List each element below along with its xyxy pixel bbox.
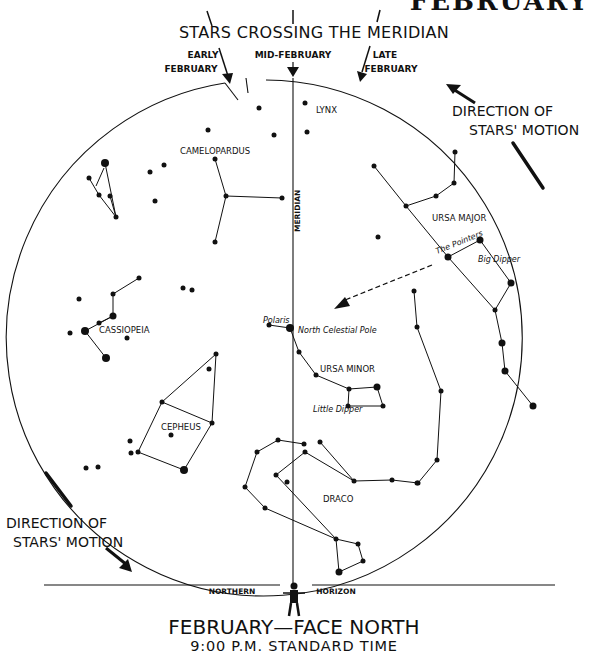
star-icon	[169, 433, 174, 438]
star-icon	[352, 479, 357, 484]
star-icon	[162, 163, 167, 168]
footer-time: 9:00 P.M. STANDARD TIME	[190, 638, 398, 654]
label-draco: DRACO	[323, 494, 354, 504]
star-icon	[305, 130, 310, 135]
star-icon	[77, 297, 82, 302]
star-icon	[181, 286, 186, 291]
star-icon	[297, 350, 302, 355]
star-icon	[502, 368, 509, 375]
star-icon	[272, 133, 277, 138]
star-icon	[213, 157, 218, 162]
star-icon	[453, 150, 458, 155]
star-icon	[129, 451, 134, 456]
pointers-dashed-arrow	[334, 265, 432, 309]
star-icon	[207, 367, 212, 372]
star-icon	[347, 387, 352, 392]
label-polaris: Polaris	[263, 316, 290, 325]
star-icon	[334, 537, 339, 542]
star-icon	[412, 289, 417, 294]
star-icon	[96, 465, 101, 470]
direction-left-line1: DIRECTION OF	[6, 515, 107, 531]
star-icon	[303, 101, 308, 106]
star-icon	[263, 506, 268, 511]
star-icon	[153, 199, 158, 204]
mid-february-arrow	[287, 62, 299, 77]
star-icon	[97, 193, 102, 198]
label-big-dipper: Big Dipper	[478, 255, 521, 264]
star-icon	[336, 569, 343, 576]
star-icon	[137, 276, 142, 281]
star-icon	[302, 442, 307, 447]
star-icon	[128, 439, 133, 444]
meridian-label: MERIDIAN	[293, 190, 302, 232]
star-icon	[356, 542, 361, 547]
star-icon	[493, 308, 498, 313]
star-icon	[213, 240, 218, 245]
star-icon	[243, 485, 248, 490]
star-icon	[125, 336, 130, 341]
star-icon	[110, 313, 117, 320]
star-icon	[81, 327, 89, 335]
star-icon	[372, 164, 377, 169]
star-icon	[415, 481, 420, 486]
label-lynx: LYNX	[316, 105, 337, 115]
stars-layer	[68, 101, 537, 576]
star-icon	[434, 194, 439, 199]
star-icon	[160, 400, 165, 405]
star-icon	[445, 254, 452, 261]
star-icon	[499, 340, 506, 347]
direction-right-line2: STARS' MOTION	[469, 122, 579, 138]
label-camelopardus: CAMELOPARDUS	[180, 146, 250, 156]
label-ursa-minor: URSA MINOR	[320, 364, 375, 374]
direction-left-line2: STARS' MOTION	[13, 534, 123, 550]
direction-right-line1: DIRECTION OF	[452, 103, 553, 119]
star-icon	[148, 170, 153, 175]
star-icon	[361, 559, 366, 564]
star-icon	[303, 450, 308, 455]
star-icon	[214, 352, 219, 357]
observer-figure-icon	[283, 583, 305, 617]
star-icon	[435, 458, 440, 463]
star-icon	[108, 194, 113, 199]
star-icon	[508, 280, 515, 287]
star-icon	[257, 106, 262, 111]
label-cassiopeia: CASSIOPEIA	[99, 325, 150, 335]
star-icon	[381, 404, 386, 409]
star-icon	[84, 466, 89, 471]
label-little-dipper: Little Dipper	[313, 405, 363, 414]
star-icon	[280, 196, 285, 201]
star-chart: STARS CROSSING THE MERIDIAN EARLY FEBRUA…	[0, 0, 589, 655]
star-icon	[274, 473, 279, 478]
star-icon	[286, 324, 294, 332]
early-label-1: EARLY	[188, 50, 219, 60]
label-north-celestial-pole: North Celestial Pole	[298, 326, 377, 335]
star-icon	[102, 354, 110, 362]
star-icon	[101, 159, 109, 167]
late-label-1: LATE	[373, 50, 397, 60]
early-label-2: FEBRUARY	[164, 64, 218, 74]
star-icon	[318, 440, 323, 445]
star-icon	[255, 450, 260, 455]
footer-title: FEBRUARY—FACE NORTH	[168, 615, 419, 639]
star-icon	[452, 181, 457, 186]
star-icon	[390, 478, 395, 483]
horizon-label-left: NORTHERN	[209, 587, 256, 596]
star-icon	[114, 215, 119, 220]
star-icon	[87, 176, 92, 181]
star-icon	[210, 421, 215, 426]
star-icon	[439, 389, 444, 394]
star-icon	[206, 128, 211, 133]
mid-label: MID-FEBRUARY	[255, 50, 332, 60]
header-title: STARS CROSSING THE MERIDIAN	[179, 23, 449, 42]
star-icon	[180, 466, 188, 474]
star-icon	[224, 194, 229, 199]
late-label-2: FEBRUARY	[364, 64, 418, 74]
star-icon	[374, 384, 381, 391]
label-ursa-major: URSA MAJOR	[432, 213, 487, 223]
star-icon	[376, 235, 381, 240]
horizon-label-right: HORIZON	[316, 587, 355, 596]
late-tick	[377, 10, 380, 22]
star-icon	[68, 331, 73, 336]
star-icon	[136, 450, 141, 455]
star-icon	[190, 288, 195, 293]
